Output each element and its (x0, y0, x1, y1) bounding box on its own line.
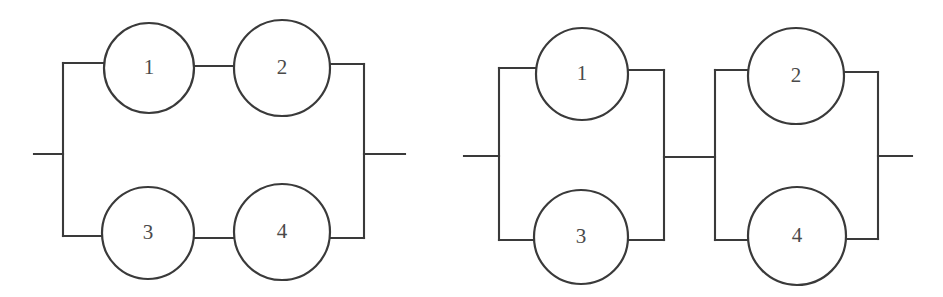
block-label-3: 3 (576, 224, 587, 248)
block-label-4: 4 (277, 219, 288, 243)
diagram-canvas: 1234 1234 (0, 0, 943, 297)
block-label-1: 1 (144, 55, 155, 79)
block-label-3: 3 (143, 220, 154, 244)
figure-container: 1234 1234 (0, 0, 943, 297)
block-label-4: 4 (792, 223, 803, 247)
parallel-series-diagram-right: 1234 (464, 28, 912, 285)
block-label-2: 2 (791, 63, 802, 87)
series-parallel-diagram-left: 1234 (34, 20, 405, 280)
block-label-2: 2 (277, 55, 288, 79)
block-label-1: 1 (577, 61, 588, 85)
